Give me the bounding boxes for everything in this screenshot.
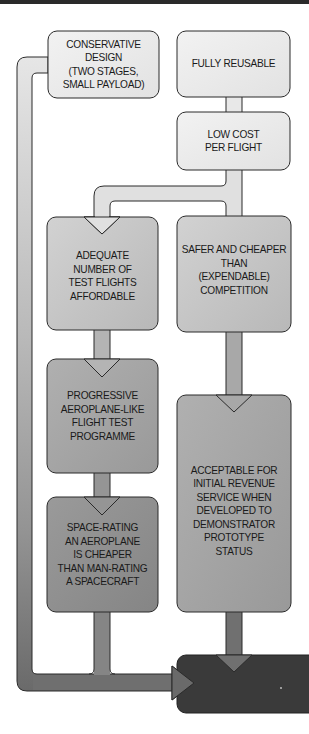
label-acceptable-for-revenue: ACCEPTABLE FOR INITIAL REVENUE SERVICE W… [182, 440, 286, 582]
connector-acceptable-to-final [226, 611, 242, 661]
label-fully-reusable: FULLY REUSABLE [182, 31, 285, 97]
label-progressive-flight-test: PROGRESSIVE AEROPLANE-LIKE FLIGHT TEST P… [52, 374, 153, 458]
label-conservative-design: CONSERVATIVE DESIGN (TWO STAGES, SMALL P… [53, 31, 154, 98]
connector-space-rating-to-bar [33, 611, 174, 690]
label-adequate-test-flights: ADEQUATE NUMBER OF TEST FLIGHTS AFFORDAB… [52, 232, 153, 320]
label-space-rating-cheaper: SPACE-RATING AN AEROPLANE IS CHEAPER THA… [50, 512, 155, 598]
connector-safer-to-acceptable [226, 331, 242, 401]
label-safer-and-cheaper: SAFER AND CHEAPER THAN (EXPENDABLE) COMP… [179, 218, 288, 322]
speck [280, 687, 282, 689]
label-low-cost-per-flight: LOW COST PER FLIGHT [182, 112, 285, 170]
connector-lowcost-branch [94, 169, 242, 222]
flowchart-canvas [0, 0, 309, 734]
